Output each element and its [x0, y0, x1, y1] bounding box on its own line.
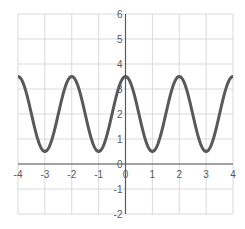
y-tick-label: -1: [114, 184, 123, 195]
x-tick-label: -4: [14, 169, 23, 180]
y-tick-label: 3: [117, 84, 123, 95]
x-tick-label: 0: [123, 169, 129, 180]
y-tick-label: 0: [117, 159, 123, 170]
y-tick-label: 6: [117, 9, 123, 20]
x-tick-label: 1: [150, 169, 156, 180]
x-tick-label: 4: [230, 169, 236, 180]
x-tick-label: -3: [40, 169, 49, 180]
chart: -4-3-2-101234 -2-10123456: [0, 0, 245, 229]
x-tick-label: -2: [67, 169, 76, 180]
y-tick-label: 4: [117, 59, 123, 70]
y-tick-label: 5: [117, 34, 123, 45]
x-tick-label: 2: [176, 169, 182, 180]
x-tick-labels: -4-3-2-101234: [14, 169, 237, 180]
y-tick-label: 1: [117, 134, 123, 145]
y-tick-label: 2: [117, 109, 123, 120]
y-tick-label: -2: [114, 209, 123, 220]
x-tick-label: 3: [203, 169, 209, 180]
x-tick-label: -1: [94, 169, 103, 180]
